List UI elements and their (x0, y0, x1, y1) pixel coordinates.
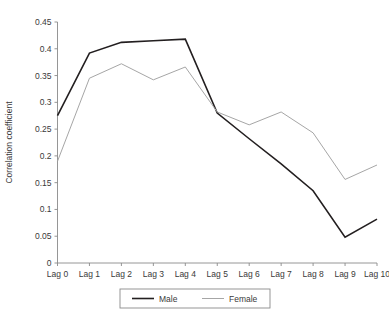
x-tick-label: Lag 0 (47, 269, 69, 279)
x-tick-label: Lag 2 (111, 269, 133, 279)
y-tick-label: 0.15 (35, 178, 52, 188)
y-tick-label: 0.1 (40, 204, 52, 214)
x-tick-label: Lag 3 (143, 269, 165, 279)
x-tick-label: Lag 7 (271, 269, 293, 279)
y-tick-label: 0.25 (35, 124, 52, 134)
legend-label-female: Female (229, 294, 258, 304)
x-tick-label: Lag 10 (364, 269, 389, 279)
series-line-female (58, 64, 378, 180)
x-tick-label: Lag 6 (239, 269, 261, 279)
x-tick-label: Lag 9 (334, 269, 356, 279)
line-chart: 00.050.10.150.20.250.30.350.40.45Lag 0La… (0, 0, 389, 318)
y-tick-label: 0.35 (35, 71, 52, 81)
chart-container: 00.050.10.150.20.250.30.350.40.45Lag 0La… (0, 0, 389, 318)
y-tick-label: 0.2 (40, 151, 52, 161)
y-tick-label: 0.4 (40, 44, 52, 54)
x-tick-label: Lag 1 (79, 269, 101, 279)
x-tick-label: Lag 8 (302, 269, 324, 279)
y-tick-label: 0.45 (35, 17, 52, 27)
y-tick-label: 0.3 (40, 97, 52, 107)
y-tick-label: 0 (47, 258, 52, 268)
x-tick-label: Lag 4 (175, 269, 197, 279)
series-line-male (58, 39, 378, 237)
y-axis-title: Correlation coefficient (4, 101, 14, 184)
y-tick-label: 0.05 (35, 231, 52, 241)
legend-label-male: Male (159, 294, 178, 304)
x-tick-label: Lag 5 (207, 269, 229, 279)
